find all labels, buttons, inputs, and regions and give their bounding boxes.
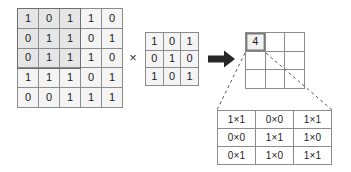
input-cell-r2-c4: 0 — [102, 49, 122, 68]
input-cell-r4-c1: 0 — [39, 88, 59, 107]
output-cell-r1-c2 — [285, 52, 304, 70]
multiply-operator-icon: × — [126, 50, 140, 64]
kernel-cell-r2-c1: 0 — [164, 68, 181, 85]
output-cell-r2-c2 — [285, 70, 304, 88]
input-cell-r2-c1: 1 — [39, 49, 59, 68]
kernel-cell-r2-c2: 1 — [181, 68, 198, 85]
input-cell-r1-c1: 1 — [39, 29, 59, 48]
input-cell-r1-c0: 0 — [18, 29, 38, 48]
input-cell-r4-c2: 1 — [60, 88, 80, 107]
kernel-cell-r0-c0: 1 — [146, 33, 163, 50]
input-cell-r2-c3: 1 — [81, 49, 101, 68]
product-cell-r0-c1: 0×0 — [256, 111, 293, 128]
output-cell-r1-c1 — [266, 52, 285, 70]
input-cell-r0-c1: 0 — [39, 9, 59, 28]
input-cell-r0-c2: 1 — [60, 9, 80, 28]
product-cell-r0-c0: 1×1 — [218, 111, 255, 128]
input-cell-r1-c3: 0 — [81, 29, 101, 48]
input-cell-r1-c4: 1 — [102, 29, 122, 48]
output-cell-r0-c1 — [266, 33, 285, 51]
product-cell-r1-c2: 1×0 — [294, 129, 331, 146]
input-cell-r0-c0: 1 — [18, 9, 38, 28]
right-arrow-icon — [208, 49, 236, 69]
input-cell-r3-c3: 0 — [81, 68, 101, 87]
output-cell-r2-c1 — [266, 70, 285, 88]
output-cell-r0-c2 — [285, 33, 304, 51]
kernel-cell-r1-c1: 1 — [164, 51, 181, 68]
output-cell-r1-c0 — [246, 52, 265, 70]
product-cell-r0-c2: 1×1 — [294, 111, 331, 128]
kernel-cell-r1-c2: 0 — [181, 51, 198, 68]
input-cell-r2-c0: 0 — [18, 49, 38, 68]
input-cell-r0-c3: 1 — [81, 9, 101, 28]
output-cell-r2-c0 — [246, 70, 265, 88]
input-cell-r3-c1: 1 — [39, 68, 59, 87]
output-matrix: 4 — [245, 32, 305, 89]
input-cell-r1-c2: 1 — [60, 29, 80, 48]
products-table: 1×10×01×10×01×11×00×11×01×1 — [217, 110, 332, 165]
kernel-cell-r2-c0: 1 — [146, 68, 163, 85]
product-cell-r2-c0: 0×1 — [218, 147, 255, 164]
input-cell-r3-c2: 1 — [60, 68, 80, 87]
kernel-matrix: 101010101 — [145, 32, 199, 86]
input-cell-r4-c4: 1 — [102, 88, 122, 107]
product-cell-r1-c1: 1×1 — [256, 129, 293, 146]
kernel-cell-r0-c1: 0 — [164, 33, 181, 50]
input-cell-r3-c0: 1 — [18, 68, 38, 87]
product-cell-r2-c1: 1×0 — [256, 147, 293, 164]
input-cell-r0-c4: 0 — [102, 9, 122, 28]
output-cell-r0-c0: 4 — [246, 33, 265, 51]
input-cell-r4-c0: 0 — [18, 88, 38, 107]
kernel-cell-r1-c0: 0 — [146, 51, 163, 68]
product-cell-r2-c2: 1×1 — [294, 147, 331, 164]
input-cell-r3-c4: 1 — [102, 68, 122, 87]
input-cell-r2-c2: 1 — [60, 49, 80, 68]
product-cell-r1-c0: 0×0 — [218, 129, 255, 146]
kernel-cell-r0-c2: 1 — [181, 33, 198, 50]
input-matrix: 1011001101011101110100111 — [17, 8, 123, 108]
input-cell-r4-c3: 1 — [81, 88, 101, 107]
convolution-diagram: 1011001101011101110100111 × 101010101 4 … — [0, 0, 351, 172]
